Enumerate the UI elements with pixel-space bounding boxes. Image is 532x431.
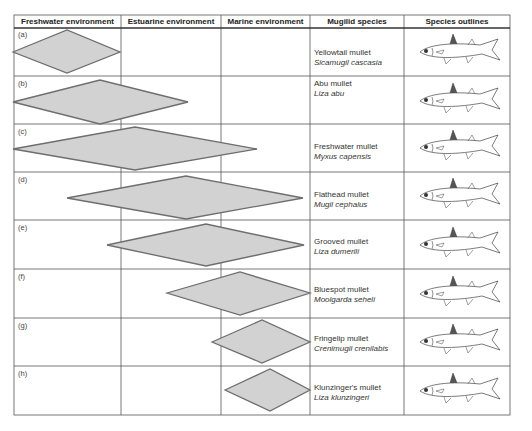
mugilid-distribution-diagram bbox=[0, 0, 532, 431]
row-label: (a) bbox=[18, 30, 27, 39]
species-outlines bbox=[420, 34, 500, 403]
diamond-e bbox=[107, 224, 304, 266]
scientific-name: Liza dumerili bbox=[314, 247, 368, 257]
species-c: Freshwater mullet Myxus capensis bbox=[314, 142, 378, 162]
row-label: (f) bbox=[18, 272, 25, 281]
diamond-c bbox=[13, 127, 257, 170]
row-label: (b) bbox=[18, 79, 27, 88]
row-label: (e) bbox=[18, 223, 27, 232]
scientific-name: Liza abu bbox=[314, 89, 352, 99]
common-name: Bluespot mullet bbox=[314, 285, 375, 295]
scientific-name: Myxus capensis bbox=[314, 152, 378, 162]
diamond-h bbox=[225, 369, 310, 411]
fish-outline-icon-g bbox=[420, 324, 500, 354]
diamond-f bbox=[167, 272, 310, 315]
header-outlines: Species outlines bbox=[404, 15, 510, 28]
species-h: Klunzinger's mullet Liza klunzingeri bbox=[314, 383, 381, 403]
header-species: Mugilid species bbox=[310, 15, 404, 28]
row-label: (h) bbox=[18, 369, 27, 378]
header-marine: Marine environment bbox=[221, 15, 310, 28]
row-label: (c) bbox=[18, 127, 27, 136]
scientific-name: Mugil cephalus bbox=[314, 200, 369, 210]
common-name: Klunzinger's mullet bbox=[314, 383, 381, 393]
common-name: Grooved mullet bbox=[314, 237, 368, 247]
fish-outline-icon-b bbox=[420, 83, 500, 113]
header-estuarine: Estuarine environment bbox=[121, 15, 221, 28]
fish-outline-icon-h bbox=[420, 373, 500, 403]
distribution-diamonds bbox=[13, 30, 310, 411]
common-name: Yellowtail mullet bbox=[314, 48, 382, 58]
diamond-b bbox=[13, 80, 188, 124]
common-name: Fringelip mullet bbox=[314, 334, 388, 344]
header-freshwater: Freshwater environment bbox=[14, 15, 121, 28]
row-label: (d) bbox=[18, 175, 27, 184]
row-label: (g) bbox=[18, 321, 27, 330]
fish-outline-icon-a bbox=[420, 34, 500, 64]
species-d: Flathead mullet Mugil cephalus bbox=[314, 190, 369, 210]
species-b: Abu mullet Liza abu bbox=[314, 79, 352, 99]
diamond-g bbox=[212, 320, 310, 363]
diamond-d bbox=[67, 176, 303, 219]
species-a: Yellowtail mullet Sicamugil cascasia bbox=[314, 48, 382, 68]
species-g: Fringelip mullet Crenimugil crenilabis bbox=[314, 334, 388, 354]
species-f: Bluespot mullet Moolgarda seheli bbox=[314, 285, 375, 305]
diamond-a bbox=[13, 30, 120, 73]
fish-outline-icon-d bbox=[420, 178, 500, 208]
scientific-name: Sicamugil cascasia bbox=[314, 58, 382, 68]
common-name: Abu mullet bbox=[314, 79, 352, 89]
fish-outline-icon-f bbox=[420, 276, 500, 306]
scientific-name: Crenimugil crenilabis bbox=[314, 344, 388, 354]
common-name: Flathead mullet bbox=[314, 190, 369, 200]
fish-outline-icon-e bbox=[420, 227, 500, 257]
common-name: Freshwater mullet bbox=[314, 142, 378, 152]
species-e: Grooved mullet Liza dumerili bbox=[314, 237, 368, 257]
fish-outline-icon-c bbox=[420, 130, 500, 160]
scientific-name: Moolgarda seheli bbox=[314, 295, 375, 305]
scientific-name: Liza klunzingeri bbox=[314, 393, 381, 403]
